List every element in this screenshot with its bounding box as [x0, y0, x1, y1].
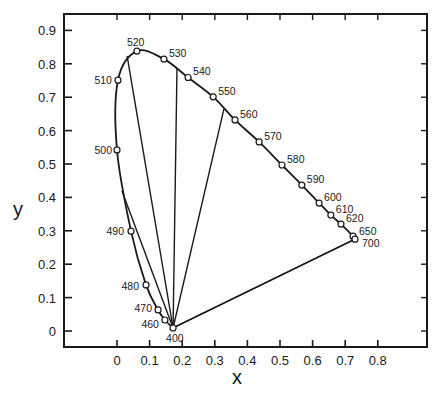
wavelength-marker [185, 74, 191, 80]
wavelength-marker [328, 212, 334, 218]
wavelength-marker [210, 94, 216, 100]
x-tick-label: 0.3 [206, 353, 224, 368]
wavelength-label: 550 [218, 85, 236, 97]
y-tick-label: 0.9 [38, 23, 56, 38]
wavelength-label: 570 [264, 130, 282, 142]
x-tick-label: 0 [113, 353, 120, 368]
wavelength-marker [143, 282, 149, 288]
wavelength-label: 480 [121, 280, 139, 292]
x-axis-ticks: 00.10.20.30.40.50.60.70.8 [113, 340, 386, 368]
y-tick-label: 0.7 [38, 90, 56, 105]
wavelength-label: 580 [287, 153, 305, 165]
y-tick-label: 0.1 [38, 291, 56, 306]
chromaticity-diagram: 00.10.20.30.40.50.60.70.8 00.10.20.30.40… [0, 0, 435, 393]
wavelength-marker [256, 139, 262, 145]
y-axis-title: y [13, 198, 23, 220]
wavelength-marker [114, 147, 120, 153]
x-tick-label: 0.5 [271, 353, 289, 368]
wavelength-label: 470 [135, 302, 153, 314]
wavelength-marker [134, 48, 140, 54]
y-tick-label: 0.8 [38, 57, 56, 72]
wavelength-marker [115, 77, 121, 83]
wavelength-marker [352, 236, 358, 242]
wavelength-marker [279, 162, 285, 168]
wavelength-marker [161, 56, 167, 62]
wavelength-label: 490 [106, 225, 124, 237]
y-tick-label: 0.6 [38, 124, 56, 139]
x-tick-label: 0.8 [369, 353, 387, 368]
wavelength-marker [299, 182, 305, 188]
wavelength-marker [316, 200, 322, 206]
y-tick-label: 0.5 [38, 157, 56, 172]
wavelength-label: 620 [346, 212, 364, 224]
wavelength-label: 700 [362, 237, 380, 249]
wavelength-label: 460 [141, 318, 159, 330]
wavelength-marker [170, 325, 176, 331]
wavelength-label: 590 [307, 173, 325, 185]
x-tick-label: 0.2 [173, 353, 191, 368]
y-tick-label: 0.4 [38, 190, 56, 205]
y-tick-label: 0 [49, 324, 56, 339]
wavelength-label: 560 [240, 108, 258, 120]
wavelength-label: 400 [166, 332, 184, 344]
wavelength-label: 520 [127, 36, 145, 48]
x-tick-label: 0.7 [336, 353, 354, 368]
wavelength-label: 500 [94, 144, 112, 156]
wavelength-marker [128, 228, 134, 234]
mixing-line [173, 109, 224, 328]
x-axis-title: x [232, 366, 242, 388]
wavelength-labels: 4004604704804905005105205305405505605705… [94, 36, 379, 344]
wavelength-label: 650 [359, 225, 377, 237]
y-axis-ticks: 00.10.20.30.40.50.60.70.80.9 [38, 23, 72, 339]
wavelength-marker [338, 221, 344, 227]
x-tick-label: 0.1 [141, 353, 159, 368]
wavelength-marker [232, 117, 238, 123]
mixing-lines [122, 56, 355, 328]
y-tick-label: 0.3 [38, 224, 56, 239]
wavelength-marker [162, 317, 168, 323]
wavelength-label: 510 [94, 74, 112, 86]
y-tick-label: 0.2 [38, 257, 56, 272]
x-tick-label: 0.6 [304, 353, 322, 368]
wavelength-markers [114, 48, 358, 331]
wavelength-marker [155, 307, 161, 313]
mixing-line [173, 68, 177, 328]
wavelength-label: 600 [324, 191, 342, 203]
wavelength-label: 530 [169, 47, 187, 59]
plot-frame [64, 14, 427, 347]
purple-line [173, 239, 355, 328]
wavelength-label: 540 [193, 65, 211, 77]
